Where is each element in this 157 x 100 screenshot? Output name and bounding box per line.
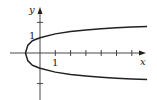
y-axis-arrow-icon	[38, 7, 43, 14]
y-tick-label-1: 1	[29, 31, 35, 41]
upper-branch-curve	[25, 26, 147, 53]
y-axis-label: y	[29, 5, 35, 15]
x-tick-label-1: 1	[52, 58, 58, 68]
x-axis	[10, 51, 146, 56]
x-axis-label: x	[140, 57, 146, 67]
x-axis-arrow-icon	[139, 51, 146, 56]
lower-branch-curve	[25, 53, 147, 80]
plot-area	[0, 0, 157, 100]
y-axis	[38, 7, 43, 100]
